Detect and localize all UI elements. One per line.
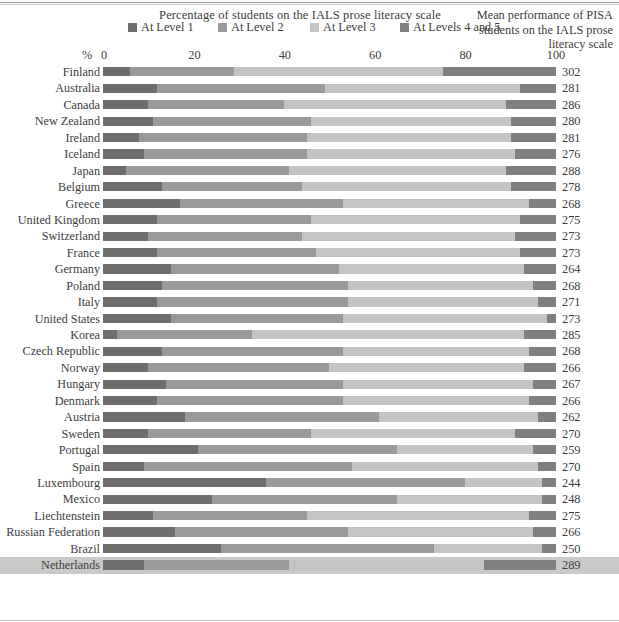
bar-segment-level-2 bbox=[139, 133, 307, 142]
chart-row[interactable]: Italy271 bbox=[0, 294, 619, 310]
legend-item-1[interactable]: At Level 1 bbox=[128, 20, 194, 35]
chart-row[interactable]: Mexico248 bbox=[0, 491, 619, 507]
bar-segment-level-2 bbox=[157, 84, 325, 93]
bar-segment-level-1 bbox=[103, 330, 117, 339]
bar-segment-level-1 bbox=[103, 462, 144, 471]
chart-row[interactable]: Japan288 bbox=[0, 163, 619, 179]
chart-row[interactable]: Denmark266 bbox=[0, 393, 619, 409]
chart-row[interactable]: Ireland281 bbox=[0, 130, 619, 146]
bar-segment-level-1 bbox=[103, 396, 157, 405]
chart-row[interactable]: Spain270 bbox=[0, 459, 619, 475]
bar-segment-level-3 bbox=[434, 544, 543, 553]
bar-segment-level-2 bbox=[148, 100, 284, 109]
chart-row[interactable]: Belgium278 bbox=[0, 179, 619, 195]
legend-item-4[interactable]: At Levels 4 and 5 bbox=[400, 20, 500, 35]
chart-row[interactable]: Greece268 bbox=[0, 196, 619, 212]
bar-segment-level-1 bbox=[103, 182, 162, 191]
chart-row[interactable]: Russian Federation266 bbox=[0, 524, 619, 540]
mean-score-value: 289 bbox=[562, 558, 580, 572]
legend-label: At Level 2 bbox=[231, 20, 284, 35]
chart-row[interactable]: France273 bbox=[0, 245, 619, 261]
chart-row[interactable]: Korea285 bbox=[0, 327, 619, 343]
bar-segment-level-3 bbox=[284, 100, 506, 109]
bar-segment-level-4 bbox=[533, 281, 556, 290]
chart-row[interactable]: Austria262 bbox=[0, 409, 619, 425]
bar-segment-level-3 bbox=[465, 478, 542, 487]
bar-segment-level-1 bbox=[103, 363, 148, 372]
bar-segment-level-1 bbox=[103, 264, 171, 273]
bar-segment-level-4 bbox=[506, 100, 556, 109]
bar-segment-level-4 bbox=[529, 511, 556, 520]
chart-row[interactable]: Iceland276 bbox=[0, 146, 619, 162]
chart-row[interactable]: Canada286 bbox=[0, 97, 619, 113]
bar-segment-level-2 bbox=[266, 478, 465, 487]
mean-score-value: 259 bbox=[562, 443, 580, 457]
bar-segment-level-2 bbox=[153, 117, 312, 126]
bar-segment-level-3 bbox=[311, 117, 510, 126]
bar-segment-level-1 bbox=[103, 248, 157, 257]
bar-segment-level-1 bbox=[103, 511, 153, 520]
chart-row[interactable]: Hungary267 bbox=[0, 376, 619, 392]
chart-row[interactable]: Liechtenstein275 bbox=[0, 508, 619, 524]
bar-segment-level-4 bbox=[515, 149, 556, 158]
bar-segment-level-3 bbox=[343, 199, 529, 208]
bar-segment-level-2 bbox=[130, 67, 234, 76]
stacked-bar bbox=[103, 527, 556, 536]
chart-row[interactable]: Sweden270 bbox=[0, 426, 619, 442]
chart-row[interactable]: United States273 bbox=[0, 311, 619, 327]
legend-item-3[interactable]: At Level 3 bbox=[310, 20, 376, 35]
mean-score-value: 271 bbox=[562, 295, 580, 309]
stacked-bar bbox=[103, 330, 556, 339]
mean-score-value: 302 bbox=[562, 65, 580, 79]
mean-score-value: 266 bbox=[562, 361, 580, 375]
bar-segment-level-4 bbox=[533, 527, 556, 536]
country-label: Iceland bbox=[64, 147, 100, 161]
chart-row[interactable]: Poland268 bbox=[0, 278, 619, 294]
axis-unit-label: % bbox=[82, 48, 92, 63]
chart-row[interactable]: Norway266 bbox=[0, 360, 619, 376]
mean-score-value: 266 bbox=[562, 394, 580, 408]
mean-score-value: 268 bbox=[562, 344, 580, 358]
chart-row[interactable]: Australia281 bbox=[0, 80, 619, 96]
country-label: France bbox=[67, 246, 100, 260]
stacked-bar bbox=[103, 84, 556, 93]
legend-swatch-icon bbox=[218, 23, 227, 32]
bar-segment-level-2 bbox=[198, 445, 397, 454]
chart-row[interactable]: Portugal259 bbox=[0, 442, 619, 458]
bar-segment-level-4 bbox=[515, 429, 556, 438]
bar-segment-level-4 bbox=[520, 248, 556, 257]
chart-row[interactable]: Luxembourg244 bbox=[0, 475, 619, 491]
bar-segment-level-1 bbox=[103, 495, 212, 504]
legend-label: At Level 1 bbox=[141, 20, 194, 35]
chart-row[interactable]: Brazil250 bbox=[0, 541, 619, 557]
chart-row[interactable]: Netherlands289 bbox=[0, 557, 619, 573]
stacked-bar bbox=[103, 264, 556, 273]
stacked-bar bbox=[103, 149, 556, 158]
country-label: Brazil bbox=[70, 542, 100, 556]
mean-score-value: 244 bbox=[562, 476, 580, 490]
bar-segment-level-1 bbox=[103, 380, 166, 389]
stacked-bar bbox=[103, 478, 556, 487]
chart-row[interactable]: New Zealand280 bbox=[0, 113, 619, 129]
chart-row[interactable]: Germany264 bbox=[0, 261, 619, 277]
country-label: Norway bbox=[61, 361, 100, 375]
legend-label: At Level 3 bbox=[323, 20, 376, 35]
chart-row[interactable]: Finland302 bbox=[0, 64, 619, 80]
country-label: Korea bbox=[70, 328, 100, 342]
bar-segment-level-4 bbox=[511, 117, 556, 126]
chart-row[interactable]: United Kingdom275 bbox=[0, 212, 619, 228]
mean-score-value: 286 bbox=[562, 98, 580, 112]
chart-row[interactable]: Czech Republic268 bbox=[0, 343, 619, 359]
chart-row[interactable]: Switzerland273 bbox=[0, 228, 619, 244]
stacked-bar bbox=[103, 412, 556, 421]
stacked-bar bbox=[103, 232, 556, 241]
bar-segment-level-1 bbox=[103, 478, 266, 487]
bar-segment-level-2 bbox=[148, 363, 329, 372]
mean-score-value: 273 bbox=[562, 229, 580, 243]
top-rule bbox=[0, 2, 619, 3]
legend-item-2[interactable]: At Level 2 bbox=[218, 20, 284, 35]
country-label: Italy bbox=[78, 295, 100, 309]
bar-segment-level-4 bbox=[529, 347, 556, 356]
axis-tick-80: 80 bbox=[459, 48, 471, 63]
bar-segment-level-4 bbox=[533, 380, 556, 389]
